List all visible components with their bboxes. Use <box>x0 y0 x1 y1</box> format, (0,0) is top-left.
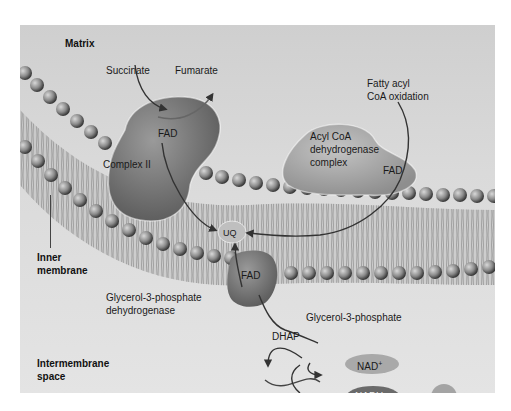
uq-label: UQ <box>223 227 237 239</box>
fatty-acyl-label-line1: Fatty acyl <box>367 78 410 90</box>
complex-ii-fad-label: FAD <box>158 128 177 140</box>
plus-label: + <box>411 391 417 393</box>
intermembrane-label-line1: Intermembrane <box>37 358 109 370</box>
nadh-label: NADH <box>355 391 383 393</box>
fumarate-label: Fumarate <box>175 65 218 77</box>
membrane-illustration <box>20 25 495 393</box>
matrix-label: Matrix <box>65 38 94 50</box>
succinate-label: Succinate <box>106 65 150 77</box>
g3p-dh-label-line2: dehydrogenase <box>106 305 175 317</box>
complex-ii-label: Complex II <box>103 159 151 171</box>
nad-label: NAD+ <box>357 358 382 373</box>
acyl-coa-label-line1: Acyl CoA <box>310 131 351 143</box>
acyl-coa-label-line2: dehydrogenase <box>310 144 379 156</box>
inner-membrane-label-line2: membrane <box>37 265 88 277</box>
inner-membrane-label-line1: Inner <box>37 252 61 264</box>
fatty-acyl-label-line2: CoA oxidation <box>367 91 429 103</box>
inner-membrane-pointer <box>50 195 51 248</box>
g3p-dh-fad-label: FAD <box>241 270 260 282</box>
h-label: H+ <box>438 391 449 393</box>
membrane-diagram: Matrix Succinate Fumarate FAD Complex II… <box>20 25 495 393</box>
acyl-coa-fad-label: FAD <box>383 165 402 177</box>
g3p-dh-label-line1: Glycerol-3-phosphate <box>106 292 202 304</box>
dhap-label: DHAP <box>272 331 300 343</box>
g3p-label: Glycerol-3-phosphate <box>306 312 402 324</box>
intermembrane-label-line2: space <box>37 371 65 383</box>
acyl-coa-label-line3: complex <box>310 157 347 169</box>
